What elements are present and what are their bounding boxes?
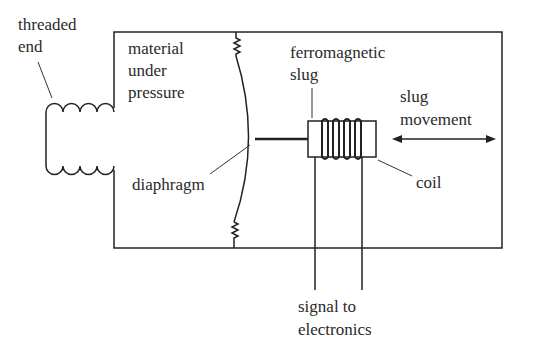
label-coil: coil bbox=[416, 173, 442, 192]
label-material: material under pressure bbox=[128, 39, 188, 102]
ferromagnetic-slug bbox=[308, 121, 376, 157]
diaphragm bbox=[232, 32, 249, 248]
label-diaphragm: diaphragm bbox=[132, 175, 205, 194]
transducer-diagram: threaded end material under pressure fer… bbox=[0, 0, 536, 352]
label-signal: signal to electronics bbox=[298, 297, 372, 339]
signal-leads bbox=[315, 157, 362, 290]
threaded-end bbox=[46, 104, 114, 175]
movement-arrow-icon bbox=[392, 135, 496, 143]
label-threaded-end: threaded end bbox=[18, 15, 81, 56]
label-movement: slug movement bbox=[400, 87, 472, 129]
label-slug: ferromagnetic slug bbox=[290, 43, 390, 84]
coil bbox=[322, 119, 361, 159]
